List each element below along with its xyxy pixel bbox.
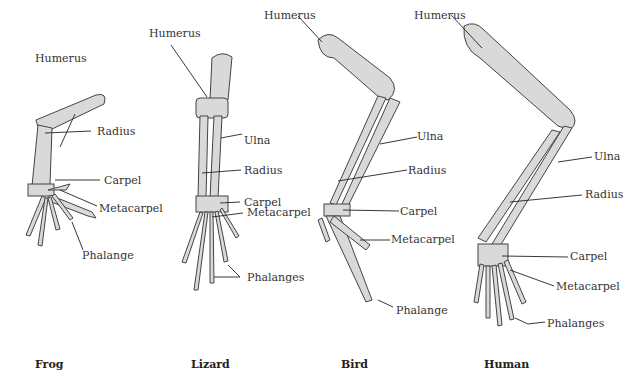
bird-label-phalange: Phalange bbox=[396, 305, 448, 317]
lizard-limb bbox=[171, 45, 243, 290]
animal-name-lizard: Lizard bbox=[191, 358, 230, 371]
animal-name-bird: Bird bbox=[341, 358, 368, 371]
bird-label-carpel: Carpel bbox=[400, 206, 437, 218]
forelimb-diagram bbox=[0, 0, 629, 385]
human-label-phalanges: Phalanges bbox=[547, 318, 604, 330]
lizard-label-metacarpel: Metacarpel bbox=[247, 207, 311, 219]
frog-label-metacarpel: Metacarpel bbox=[99, 203, 163, 215]
human-label-radius: Radius bbox=[585, 189, 623, 201]
lizard-label-radius: Radius bbox=[244, 165, 282, 177]
frog-label-humerus: Humerus bbox=[35, 53, 87, 65]
animal-name-frog: Frog bbox=[35, 358, 63, 371]
human-label-metacarpel: Metacarpel bbox=[556, 281, 620, 293]
bird-label-ulna: Ulna bbox=[417, 131, 443, 143]
lizard-label-humerus: Humerus bbox=[149, 28, 201, 40]
bird-label-humerus: Humerus bbox=[264, 10, 316, 22]
frog-label-phalange: Phalange bbox=[82, 250, 134, 262]
human-label-ulna: Ulna bbox=[594, 151, 620, 163]
bird-limb bbox=[298, 16, 417, 307]
animal-name-human: Human bbox=[484, 358, 529, 371]
lizard-label-ulna: Ulna bbox=[244, 135, 270, 147]
frog-label-carpel: Carpel bbox=[104, 175, 141, 187]
human-label-humerus: Humerus bbox=[414, 10, 466, 22]
frog-label-radius: Radius bbox=[97, 126, 135, 138]
human-label-carpel: Carpel bbox=[570, 251, 607, 263]
frog-limb bbox=[26, 94, 105, 250]
lizard-label-phalanges: Phalanges bbox=[247, 272, 304, 284]
bird-label-metacarpel: Metacarpel bbox=[391, 234, 455, 246]
bird-label-radius: Radius bbox=[408, 165, 446, 177]
